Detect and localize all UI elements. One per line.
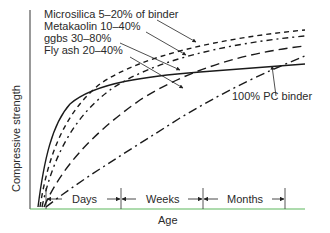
curve-pc-binder (38, 64, 305, 207)
label-fly-ash: Fly ash 20–40% (44, 44, 123, 56)
curves (38, 30, 305, 207)
label-pc-binder: 100% PC binder (232, 90, 312, 102)
region-label-months: Months (227, 193, 264, 205)
leader-lines (120, 20, 276, 96)
region-label-days: Days (72, 193, 98, 205)
label-metakaolin: Metakaolin 10–40% (44, 20, 141, 32)
chart: Days Weeks Months Age Compressive streng… (0, 0, 330, 233)
curve-ggbs (44, 46, 305, 207)
y-axis-title: Compressive strength (10, 85, 22, 192)
region-label-weeks: Weeks (146, 193, 180, 205)
x-axis-title: Age (158, 214, 178, 226)
label-microsilica: Microsilica 5–20% of binder (44, 8, 179, 20)
label-ggbs: ggbs 30–80% (44, 32, 111, 44)
curve-fly-ash (46, 56, 305, 207)
